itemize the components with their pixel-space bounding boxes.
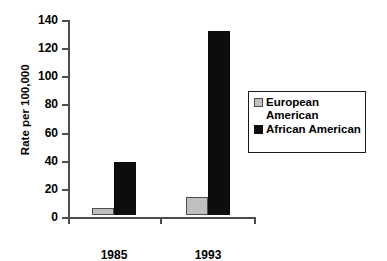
y-tick-mark	[62, 133, 69, 135]
bar-1985-african-american	[114, 162, 136, 215]
y-tick-label: 0	[51, 210, 58, 224]
gray-swatch-icon	[254, 98, 263, 107]
plot-area: 020406080100120140 19851993	[68, 20, 256, 217]
x-axis-label-1985: 1985	[101, 248, 128, 261]
y-tick-label: 80	[45, 97, 58, 111]
y-tick-mark	[62, 161, 69, 163]
y-tick-label: 120	[38, 41, 58, 55]
y-tick-label: 140	[38, 13, 58, 27]
y-tick-label: 100	[38, 69, 58, 83]
category-separator-tick	[160, 217, 162, 224]
y-tick-mark	[62, 20, 69, 22]
y-tick-mark	[62, 76, 69, 78]
y-tick-mark	[62, 48, 69, 50]
y-tick-label: 60	[45, 126, 58, 140]
chart-legend: European American African American	[248, 91, 366, 153]
x-axis-end-tick	[254, 217, 256, 224]
y-axis-title-container: Rate per 100,000	[14, 0, 36, 220]
y-tick-label: 40	[45, 154, 58, 168]
y-tick-mark	[62, 104, 69, 106]
black-swatch-icon	[254, 125, 263, 134]
legend-item: European American	[254, 96, 361, 122]
x-axis-line	[68, 217, 256, 219]
y-tick-label: 20	[45, 182, 58, 196]
legend-item-label: European American	[266, 96, 319, 122]
legend-item: African American	[254, 123, 361, 136]
bar-1993-european-american	[186, 197, 208, 215]
bar-1993-african-american	[208, 31, 230, 215]
legend-item-label: African American	[266, 123, 361, 136]
y-tick-mark	[62, 189, 69, 191]
x-axis-start-tick	[68, 217, 70, 224]
bar-1985-european-american	[92, 208, 114, 215]
x-axis-label-1993: 1993	[195, 248, 222, 261]
y-axis-title: Rate per 100,000	[19, 65, 31, 156]
chart-figure: Rate per 100,000 020406080100120140 1985…	[0, 0, 387, 261]
